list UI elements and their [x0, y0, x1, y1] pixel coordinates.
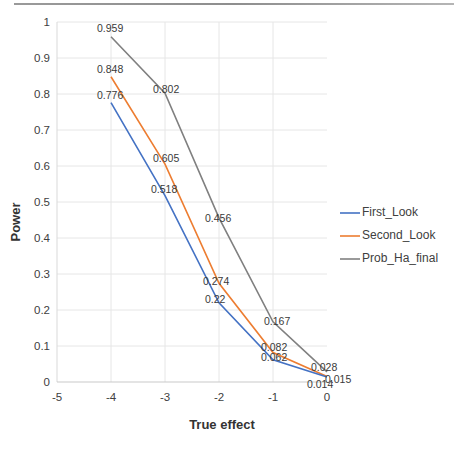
y-tick-label-0.2: 0.2 [34, 304, 50, 316]
data-label-second-look--4: 0.848 [97, 63, 123, 75]
data-labels-second-look: 0.848 0.605 0.274 0.082 0.015 [97, 63, 351, 385]
y-axis-title: Power [8, 202, 23, 241]
data-label-second-look--3: 0.605 [153, 152, 179, 164]
data-label-prob-ha-final--1: 0.167 [264, 315, 290, 327]
legend-item-second-look[interactable]: Second_Look [340, 228, 436, 242]
x-tick-label--4: -4 [106, 391, 117, 403]
y-tick-label-0.1: 0.1 [34, 340, 50, 352]
x-tick-label--5: -5 [52, 391, 62, 403]
y-tick-label-0.4: 0.4 [34, 232, 51, 244]
x-axis-title: True effect [189, 417, 255, 432]
y-tick-label-0.6: 0.6 [34, 160, 50, 172]
y-tick-label-0.5: 0.5 [34, 196, 50, 208]
legend-item-first-look[interactable]: First_Look [340, 205, 419, 219]
data-label-prob-ha-final--3: 0.802 [153, 83, 179, 95]
y-tick-label-0.8: 0.8 [34, 88, 50, 100]
data-label-first-look-0: 0.014 [307, 378, 333, 390]
data-label-first-look--2: 0.22 [205, 293, 226, 305]
data-label-second-look--2: 0.274 [203, 275, 229, 287]
x-tick-label--2: -2 [214, 391, 224, 403]
legend-label-first-look: First_Look [362, 205, 419, 219]
data-label-first-look--1: 0.062 [261, 351, 287, 363]
y-tick-labels: 1 0.9 0.8 0.7 0.6 0.5 0.4 0.3 0.2 0.1 0 [34, 16, 51, 388]
data-label-prob-ha-final--2: 0.456 [205, 212, 231, 224]
legend-item-prob-ha-final[interactable]: Prob_Ha_final [340, 251, 438, 265]
y-tick-label-0.9: 0.9 [34, 52, 50, 64]
y-tick-label-0.3: 0.3 [34, 268, 50, 280]
x-tick-label--3: -3 [160, 391, 170, 403]
x-tick-label--1: -1 [268, 391, 278, 403]
y-tick-label-0: 0 [44, 376, 50, 388]
data-label-prob-ha-final--4: 0.959 [97, 22, 123, 34]
data-label-first-look--3: 0.518 [151, 183, 177, 195]
chart-svg: 1 0.9 0.8 0.7 0.6 0.5 0.4 0.3 0.2 0.1 0 … [0, 0, 461, 450]
data-label-first-look--4: 0.776 [97, 89, 123, 101]
data-labels-prob-ha-final: 0.959 0.802 0.456 0.167 0.028 [97, 22, 337, 373]
y-tick-label-0.7: 0.7 [34, 124, 50, 136]
legend-label-second-look: Second_Look [362, 228, 436, 242]
legend-label-prob-ha-final: Prob_Ha_final [362, 251, 438, 265]
x-tick-label-0: 0 [324, 391, 330, 403]
y-tick-label-1: 1 [44, 16, 50, 28]
data-label-prob-ha-final-0: 0.028 [311, 361, 337, 373]
power-vs-true-effect-chart: 1 0.9 0.8 0.7 0.6 0.5 0.4 0.3 0.2 0.1 0 … [0, 0, 461, 450]
chart-legend: First_Look Second_Look Prob_Ha_final [340, 205, 438, 265]
x-tick-labels: -5 -4 -3 -2 -1 0 [52, 391, 330, 403]
